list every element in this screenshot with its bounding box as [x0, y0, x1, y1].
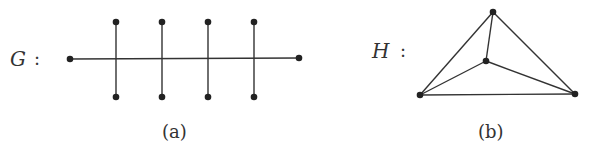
graph-g-vertex	[159, 19, 166, 26]
graph-g-vertex	[205, 19, 212, 26]
graph-g: G : (a)	[10, 19, 302, 142]
graph-g-edge	[70, 58, 299, 59]
graph-h-vertex	[490, 9, 497, 16]
graph-h-edge	[493, 12, 575, 94]
graph-h-edges	[420, 12, 575, 95]
graph-g-label: G	[10, 47, 26, 71]
graph-h-edge	[420, 94, 575, 95]
graph-g-vertex	[67, 56, 74, 63]
graph-g-edges	[70, 22, 299, 97]
graph-g-colon: :	[34, 48, 40, 69]
graph-h-label: H	[371, 39, 390, 63]
graph-g-vertex	[251, 19, 258, 26]
graph-g-vertex	[251, 94, 258, 101]
graph-h-vertex	[572, 91, 579, 98]
graph-figure: G : (a) H : (b)	[0, 0, 590, 164]
graph-g-vertex	[205, 94, 212, 101]
graph-h: H : (b)	[371, 9, 578, 142]
graph-g-vertex	[296, 55, 303, 62]
graph-h-edge	[420, 12, 493, 95]
graph-h-vertex	[417, 92, 424, 99]
graph-g-vertex	[113, 94, 120, 101]
graph-g-vertex	[159, 94, 166, 101]
caption-b: (b)	[478, 121, 504, 142]
graph-h-edge	[420, 61, 486, 95]
graph-h-edge	[486, 61, 575, 94]
graph-g-vertex	[113, 19, 120, 26]
graph-h-vertex	[483, 58, 490, 65]
graph-h-colon: :	[400, 40, 406, 61]
caption-a: (a)	[162, 121, 187, 142]
